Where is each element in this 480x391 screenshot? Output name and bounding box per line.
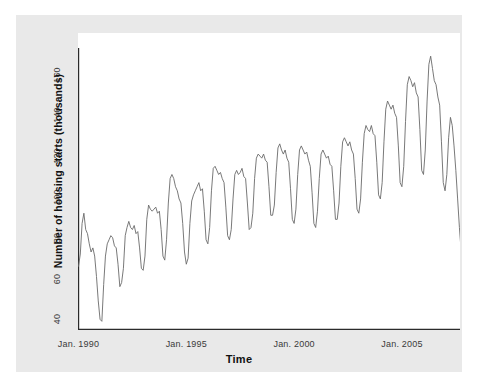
x-tick-label: Jan. 1995 (156, 339, 216, 349)
x-tick-label: Jan. 2005 (372, 339, 432, 349)
y-axis-title: Number of housing starts (thousands) (52, 56, 64, 286)
y-tick-label: 40 (52, 306, 62, 332)
tick-marks-group (78, 77, 402, 330)
x-tick-label: Jan. 1990 (49, 339, 109, 349)
figure-container: 406080100120140160 Jan. 1990Jan. 1995Jan… (16, 15, 462, 372)
x-tick-label: Jan. 2000 (264, 339, 324, 349)
plot-panel (78, 33, 460, 330)
x-axis-title: Time (16, 353, 462, 365)
chart-canvas (78, 33, 460, 330)
housing-starts-line (79, 56, 461, 321)
